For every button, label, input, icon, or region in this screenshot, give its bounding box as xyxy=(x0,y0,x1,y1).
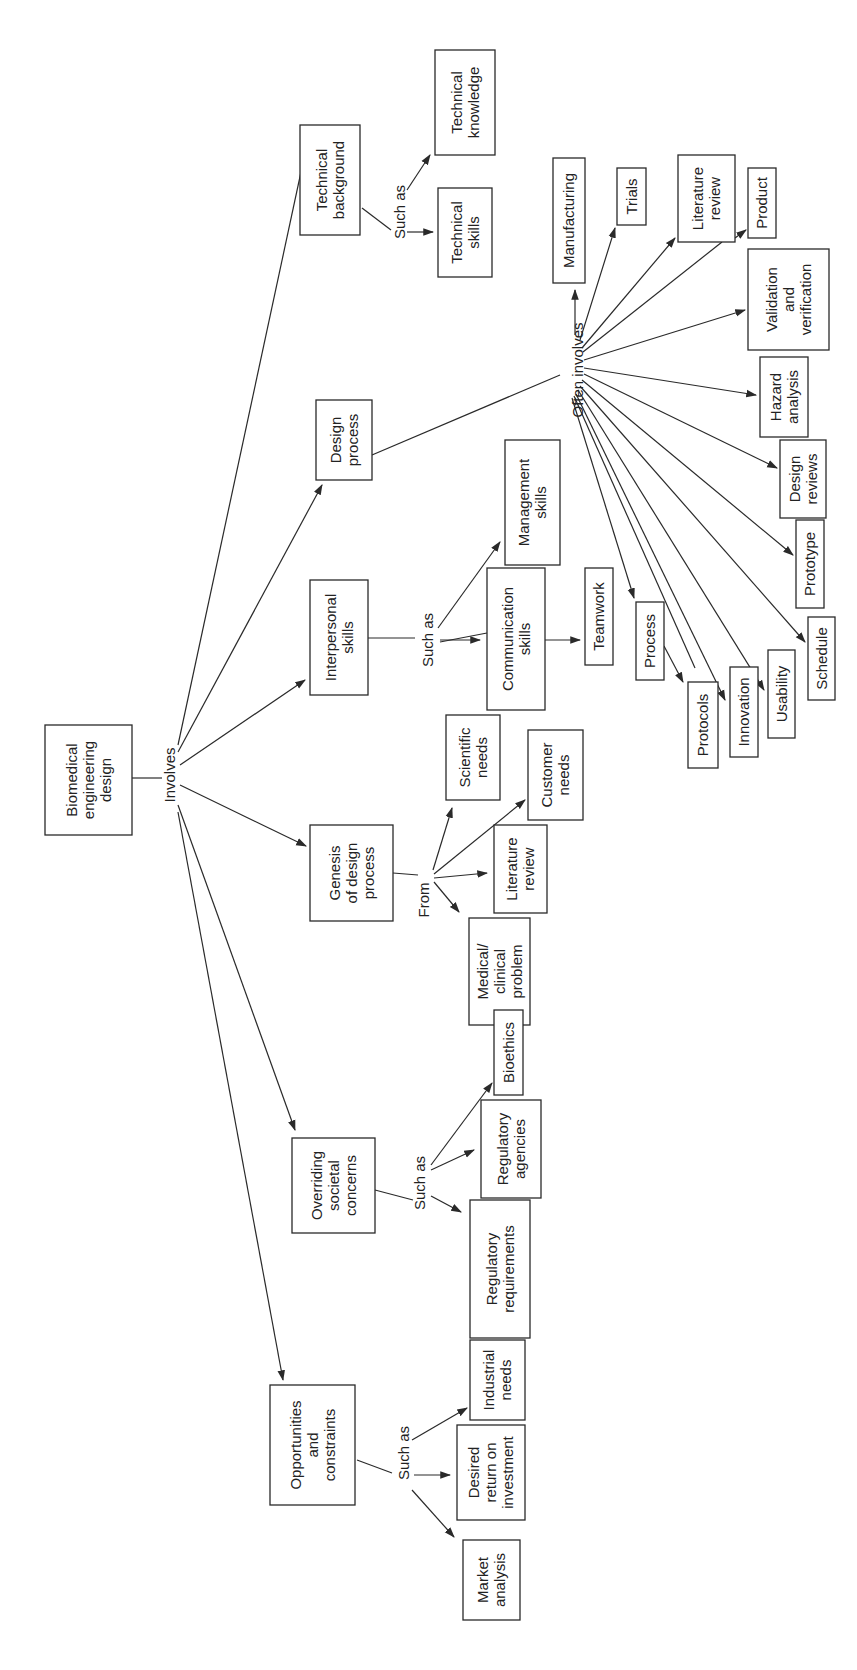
node-label: Innovation xyxy=(735,677,752,746)
node-label-line: Management xyxy=(515,458,532,546)
link-edge xyxy=(440,633,487,642)
nodes: BiomedicalengineeringdesignTechnicalback… xyxy=(45,50,835,1620)
arrow-edge xyxy=(735,230,746,238)
node-scientific-needs: Scientificneeds xyxy=(446,715,500,800)
node-label: Usability xyxy=(773,665,790,722)
node-label-line: design xyxy=(97,758,114,802)
node-label: Protocols xyxy=(694,694,711,757)
node-label-line: skills xyxy=(465,216,482,249)
node-label-line: needs xyxy=(497,1360,514,1401)
node-label: Genesisof designprocess xyxy=(326,843,377,904)
node-hazard: Hazardanalysis xyxy=(760,357,808,437)
node-label-line: Protocols xyxy=(694,694,711,757)
arrow-edge xyxy=(584,374,777,468)
node-label-line: Validation xyxy=(763,267,780,332)
node-label-line: knowledge xyxy=(465,67,482,139)
node-communication: Communicationskills xyxy=(487,568,545,710)
node-design-reviews: Designreviews xyxy=(780,440,826,518)
node-label-line: Trials xyxy=(623,178,640,214)
node-label: Regulatoryagencies xyxy=(494,1112,528,1185)
connector-label-from: From xyxy=(415,883,432,918)
node-label-line: skills xyxy=(339,621,356,654)
node-label-line: Opportunities xyxy=(287,1400,304,1489)
node-label-line: analysis xyxy=(491,1553,508,1607)
concept-map: BiomedicalengineeringdesignTechnicalback… xyxy=(0,0,857,1670)
node-label-line: Prototype xyxy=(801,532,818,596)
node-label-line: Innovation xyxy=(735,677,752,746)
arrow-edge xyxy=(434,882,459,912)
node-label-line: requirements xyxy=(500,1225,517,1313)
node-label-line: Scientific xyxy=(456,727,473,788)
link-edge xyxy=(375,1190,413,1200)
node-societal: Overridingsocietalconcerns xyxy=(292,1138,375,1233)
node-opportunities: Opportunitiesandconstraints xyxy=(270,1385,355,1505)
node-label: Medical/clinicalproblem xyxy=(474,943,525,1000)
node-label-line: skills xyxy=(532,486,549,519)
node-label-line: of design xyxy=(343,843,360,904)
node-usability: Usability xyxy=(768,650,795,738)
node-label-line: and xyxy=(304,1432,321,1457)
node-label-line: Regulatory xyxy=(494,1112,511,1185)
node-label-line: needs xyxy=(473,737,490,778)
arrow-edge xyxy=(431,1196,461,1212)
node-label-line: engineering xyxy=(80,741,97,819)
node-label-line: Industrial xyxy=(480,1350,497,1411)
node-label: Designreviews xyxy=(786,454,820,505)
node-label-line: Medical/ xyxy=(474,943,491,1000)
node-label-line: Product xyxy=(753,176,770,229)
arrow-edge xyxy=(407,155,430,190)
node-label: Regulatoryrequirements xyxy=(483,1225,517,1313)
node-label-line: Regulatory xyxy=(483,1232,500,1305)
arrow-edge xyxy=(178,130,310,745)
node-regulatory-requirements: Regulatoryrequirements xyxy=(470,1200,530,1338)
arrow-edge xyxy=(584,368,756,395)
node-label: Marketanalysis xyxy=(474,1553,508,1607)
link-edge xyxy=(583,242,722,352)
node-label-line: Market xyxy=(474,1556,491,1603)
node-label-line: Design xyxy=(786,456,803,503)
node-process: Process xyxy=(636,602,664,680)
node-product: Product xyxy=(748,168,776,238)
node-label-line: Schedule xyxy=(813,627,830,690)
node-label: Technicalknowledge xyxy=(448,67,482,139)
node-label-line: reviews xyxy=(803,454,820,505)
node-root: Biomedicalengineeringdesign xyxy=(45,725,132,835)
node-label: Schedule xyxy=(813,627,830,690)
node-label-line: investment xyxy=(499,1435,516,1508)
connector-label-such-as-interpersonal: Such as xyxy=(419,613,436,667)
node-label-line: skills xyxy=(516,623,533,656)
node-label-line: Technical xyxy=(448,201,465,264)
connector-label-often-involves: Often involves xyxy=(569,322,586,417)
node-technical-skills: Technicalskills xyxy=(438,188,492,277)
node-label-line: Biomedical xyxy=(63,743,80,816)
connector-label-such-as-tech: Such as xyxy=(391,185,408,239)
node-label-line: Communication xyxy=(499,587,516,691)
arrow-edge xyxy=(178,805,295,1130)
node-label-line: Literature xyxy=(503,837,520,900)
node-label-line: Genesis xyxy=(326,845,343,900)
node-label-line: Literature xyxy=(689,167,706,230)
node-management: Managementskills xyxy=(505,440,560,565)
node-label-line: needs xyxy=(555,755,572,796)
arrow-edge xyxy=(582,238,675,348)
node-label-line: Overriding xyxy=(308,1151,325,1220)
node-label-line: Design xyxy=(327,417,344,464)
node-label-line: Hazard xyxy=(767,373,784,421)
node-label: Teamwork xyxy=(590,582,607,651)
node-label-line: review xyxy=(520,847,537,891)
node-label: Manufacturing xyxy=(560,173,577,268)
node-label-line: review xyxy=(706,177,723,221)
node-label-line: and xyxy=(780,287,797,312)
node-label: Trials xyxy=(623,178,640,214)
node-return-on-investment: Desiredreturn oninvestment xyxy=(457,1425,525,1520)
node-trials: Trials xyxy=(617,168,646,225)
node-technical-knowledge: Technicalknowledge xyxy=(435,50,495,155)
node-label-line: analysis xyxy=(784,370,801,424)
connector-label-such-as-societal: Such as xyxy=(411,1156,428,1210)
node-bioethics: Bioethics xyxy=(494,1010,523,1095)
node-label-line: agencies xyxy=(511,1119,528,1179)
arrow-edge xyxy=(412,1490,454,1537)
node-market-analysis: Marketanalysis xyxy=(463,1540,520,1620)
node-label-line: Desired xyxy=(465,1447,482,1499)
arrow-edge xyxy=(664,646,683,682)
